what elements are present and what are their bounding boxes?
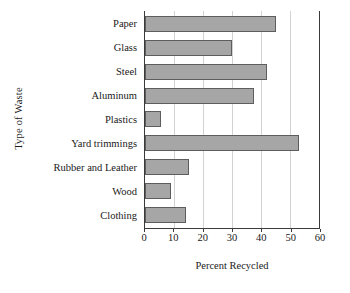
bars-group [145, 11, 319, 228]
x-tick-label: 60 [315, 232, 326, 243]
bar-row [145, 158, 319, 176]
bar-row [145, 182, 319, 200]
x-tick-label: 20 [197, 232, 208, 243]
category-label: Yard trimmings [0, 135, 141, 153]
bar-row [145, 39, 319, 57]
bar [145, 159, 189, 175]
category-label: Glass [0, 39, 141, 57]
y-axis-category-labels: PaperGlassSteelAluminumPlasticsYard trim… [0, 11, 141, 229]
bar-chart-figure: Type of Waste PaperGlassSteelAluminumPla… [0, 0, 350, 293]
category-label: Clothing [0, 207, 141, 225]
category-label: Rubber and Leather [0, 159, 141, 177]
bar-row [145, 63, 319, 81]
bar [145, 183, 171, 199]
bar [145, 64, 267, 80]
x-tick-label: 40 [256, 232, 267, 243]
category-label: Plastics [0, 111, 141, 129]
bar-row [145, 134, 319, 152]
category-label: Wood [0, 183, 141, 201]
x-tick-label: 50 [285, 232, 296, 243]
x-axis-title: Percent Recycled [144, 260, 320, 271]
bar-row [145, 87, 319, 105]
bar-row [145, 206, 319, 224]
plot-area [144, 11, 320, 229]
category-label: Aluminum [0, 87, 141, 105]
bar [145, 88, 254, 104]
category-label: Paper [0, 15, 141, 33]
bar-row [145, 110, 319, 128]
bar [145, 207, 186, 223]
bar [145, 16, 276, 32]
bar [145, 40, 232, 56]
x-tick-label: 30 [227, 232, 238, 243]
x-axis-ticks: 0102030405060 [144, 229, 320, 245]
category-label: Steel [0, 63, 141, 81]
x-tick-label: 10 [168, 232, 179, 243]
bar [145, 111, 161, 127]
bar [145, 135, 299, 151]
bar-row [145, 15, 319, 33]
x-tick-label: 0 [141, 232, 146, 243]
